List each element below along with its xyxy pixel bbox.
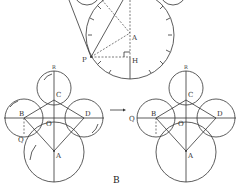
point-A [185, 150, 187, 152]
label-D: D [217, 110, 223, 118]
dashed-line-to-A [102, 0, 130, 33]
label-H: H [132, 57, 138, 65]
label-Q: Q [18, 136, 24, 144]
label-C: C [188, 91, 193, 99]
label-Q: Q [129, 115, 135, 123]
geometry-figure: A P H R C B O D Q A [0, 0, 238, 183]
figure-caption: B [113, 175, 120, 183]
label-A: A [187, 152, 194, 160]
label-C: C [56, 91, 61, 99]
rotation-arrow-A [30, 145, 36, 160]
left-diagram: R C B O D Q A [4, 64, 104, 182]
transition-arrow [110, 109, 126, 112]
right-diagram: R C B O D Q A [129, 64, 236, 182]
top-left-small-circle [74, 0, 100, 5]
label-P: P [82, 56, 87, 64]
label-R: R [184, 64, 188, 70]
label-O: O [178, 120, 184, 128]
label-O: O [46, 120, 52, 128]
label-R: R [52, 64, 56, 70]
chord-line [91, 0, 123, 57]
label-A: A [131, 34, 138, 42]
label-B: B [19, 110, 24, 118]
right-angle-mark [124, 52, 130, 57]
rotation-arrow-C [44, 74, 52, 80]
point-A [53, 150, 55, 152]
point-P [90, 56, 92, 58]
label-D: D [85, 110, 91, 118]
top-right-small-circle [160, 0, 186, 5]
label-B: B [151, 110, 156, 118]
label-A: A [55, 152, 62, 160]
top-diagram: A P H [69, 0, 186, 79]
tangent-line [69, 0, 91, 57]
